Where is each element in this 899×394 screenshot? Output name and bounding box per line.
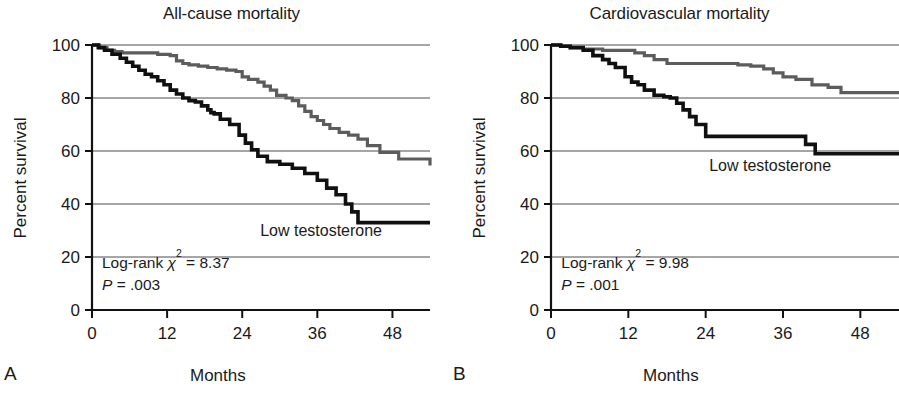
- x-tick-label-24: 24: [696, 324, 715, 343]
- y-tick-label-0: 0: [71, 301, 80, 320]
- x-tick-label-36: 36: [308, 324, 327, 343]
- x-tick-label-0: 0: [87, 324, 96, 343]
- panel-b-letter: B: [453, 363, 466, 385]
- y-tick-label-80: 80: [520, 89, 539, 108]
- y-tick-label-100: 100: [511, 36, 539, 55]
- panel-a-letter: A: [4, 363, 17, 385]
- y-tick-label-60: 60: [61, 142, 80, 161]
- y-tick-label-20: 20: [61, 248, 80, 267]
- p-value-statistic: P = .001: [561, 276, 619, 293]
- y-tick-label-80: 80: [61, 89, 80, 108]
- y-tick-label-40: 40: [520, 195, 539, 214]
- survival-curve-low-testosterone: [551, 45, 899, 154]
- x-tick-label-24: 24: [233, 324, 252, 343]
- x-tick-label-48: 48: [383, 324, 402, 343]
- kaplan-meier-figure: All-cause mortality Percent survival 020…: [0, 0, 899, 394]
- log-rank-statistic: Log-rank χ2 = 8.37: [102, 247, 230, 271]
- survival-curve-normal-testosterone: [92, 45, 430, 166]
- y-tick-label-60: 60: [520, 142, 539, 161]
- panel-a-plot: 020406080100012243648Low testosteroneLog…: [0, 0, 449, 360]
- low-testosterone-curve-label: Low testosterone: [260, 222, 382, 239]
- x-tick-label-48: 48: [851, 324, 870, 343]
- x-tick-label-0: 0: [546, 324, 555, 343]
- y-tick-label-0: 0: [530, 301, 539, 320]
- x-tick-label-12: 12: [158, 324, 177, 343]
- panel-cardiovascular-mortality: Cardiovascular mortality Percent surviva…: [450, 0, 899, 394]
- y-tick-label-20: 20: [520, 248, 539, 267]
- survival-curve-normal-testosterone: [551, 45, 899, 93]
- x-tick-label-12: 12: [619, 324, 638, 343]
- low-testosterone-curve-label: Low testosterone: [709, 157, 831, 174]
- y-tick-label-40: 40: [61, 195, 80, 214]
- panel-a-x-axis-label: Months: [190, 366, 246, 386]
- p-value-statistic: P = .003: [102, 276, 160, 293]
- log-rank-statistic: Log-rank χ2 = 9.98: [561, 247, 689, 271]
- y-tick-label-100: 100: [52, 36, 80, 55]
- panel-all-cause-mortality: All-cause mortality Percent survival 020…: [0, 0, 449, 394]
- survival-curve-low-testosterone: [92, 45, 430, 223]
- panel-b-plot: 020406080100012243648Low testosteroneLog…: [450, 0, 899, 360]
- x-tick-label-36: 36: [774, 324, 793, 343]
- panel-b-x-axis-label: Months: [643, 366, 699, 386]
